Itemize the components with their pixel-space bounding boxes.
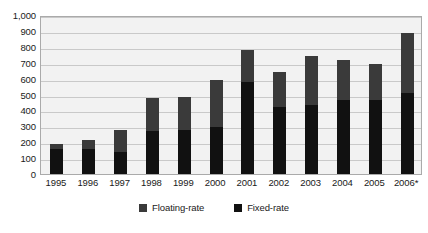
- bar-column: [146, 98, 159, 174]
- y-axis-tick-label: 500: [0, 91, 36, 101]
- x-axis-tick-label: 1997: [109, 178, 130, 188]
- bar-segment-floating-rate: [210, 80, 223, 127]
- y-axis-tick-label: 300: [0, 123, 36, 133]
- legend-item: Floating-rate: [139, 203, 204, 213]
- bar-segment-floating-rate: [178, 97, 191, 130]
- bar-segment-floating-rate: [273, 72, 286, 107]
- plot-wrapper: [40, 16, 422, 175]
- bar-segment-floating-rate: [401, 33, 414, 93]
- y-axis-tick-label: 1,000: [0, 11, 36, 21]
- bar-column: [273, 72, 286, 174]
- bar-segment-floating-rate: [337, 60, 350, 101]
- bar-segment-floating-rate: [82, 140, 95, 150]
- bars-layer: [41, 17, 421, 174]
- bar-column: [241, 50, 254, 174]
- bar-segment-fixed-rate: [178, 130, 191, 174]
- bar-column: [178, 97, 191, 174]
- bar-segment-fixed-rate: [210, 127, 223, 174]
- x-axis-tick-label: 2006*: [394, 178, 418, 188]
- y-axis-tick-label: 900: [0, 27, 36, 37]
- y-axis-tick-label: 400: [0, 107, 36, 117]
- x-axis-tick-label: 2001: [237, 178, 258, 188]
- legend-swatch-icon: [139, 204, 147, 212]
- legend-item: Fixed-rate: [234, 203, 289, 213]
- bar-segment-floating-rate: [241, 50, 254, 82]
- y-axis-tick-label: 0: [0, 170, 36, 180]
- bar-column: [50, 144, 63, 174]
- chart-legend: Floating-rateFixed-rate: [0, 203, 428, 213]
- x-axis-tick-label: 2004: [332, 178, 353, 188]
- x-axis-tick-label: 2000: [205, 178, 226, 188]
- plot-area: [40, 16, 422, 175]
- y-axis-tick-label: 600: [0, 75, 36, 85]
- y-axis-tick-label: 200: [0, 138, 36, 148]
- bar-segment-fixed-rate: [82, 149, 95, 174]
- legend-label: Floating-rate: [152, 203, 204, 213]
- x-axis-tick-label: 1995: [46, 178, 67, 188]
- bar-column: [305, 56, 318, 174]
- x-axis-tick-label: 2002: [268, 178, 289, 188]
- stacked-bar-chart: 1,0009008007006005004003002001000 199519…: [0, 0, 428, 233]
- bar-segment-fixed-rate: [305, 105, 318, 174]
- x-axis-tick-label: 1999: [173, 178, 194, 188]
- bar-segment-floating-rate: [369, 64, 382, 101]
- bar-segment-fixed-rate: [401, 93, 414, 174]
- bar-column: [210, 80, 223, 174]
- x-axis-tick-label: 2005: [364, 178, 385, 188]
- x-axis-tick-label: 1996: [77, 178, 98, 188]
- x-axis-tick-label: 1998: [141, 178, 162, 188]
- bar-segment-fixed-rate: [369, 100, 382, 174]
- bar-segment-fixed-rate: [337, 100, 350, 174]
- bar-segment-fixed-rate: [114, 152, 127, 174]
- legend-swatch-icon: [234, 204, 242, 212]
- bar-column: [337, 60, 350, 174]
- bar-segment-fixed-rate: [50, 149, 63, 174]
- bar-column: [401, 33, 414, 174]
- bar-column: [114, 130, 127, 175]
- y-axis: 1,0009008007006005004003002001000: [0, 0, 36, 175]
- bar-segment-fixed-rate: [241, 82, 254, 174]
- bar-segment-fixed-rate: [273, 107, 286, 174]
- bar-column: [82, 140, 95, 174]
- legend-label: Fixed-rate: [247, 203, 289, 213]
- bar-segment-floating-rate: [146, 98, 159, 131]
- x-axis-tick-label: 2003: [300, 178, 321, 188]
- y-axis-tick-label: 700: [0, 59, 36, 69]
- bar-segment-fixed-rate: [146, 131, 159, 174]
- bar-segment-floating-rate: [114, 130, 127, 152]
- x-axis: 1995199619971998199920002001200220032004…: [40, 178, 422, 200]
- y-axis-tick-label: 800: [0, 43, 36, 53]
- bar-segment-floating-rate: [305, 56, 318, 104]
- bar-column: [369, 64, 382, 174]
- y-axis-tick-label: 100: [0, 154, 36, 164]
